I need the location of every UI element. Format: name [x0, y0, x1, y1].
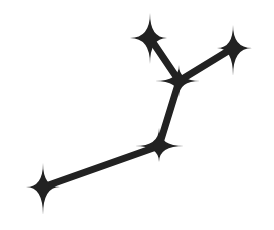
- star-core-bottom-left: [37, 181, 49, 193]
- constellation-edges: [43, 38, 233, 187]
- constellation-diagram: [0, 0, 274, 230]
- edge-top-left-to-hub: [150, 38, 179, 81]
- edge-hub-to-lower-middle: [159, 81, 179, 146]
- edge-lower-middle-to-bottom-left: [43, 146, 159, 187]
- star-core-top-right: [227, 42, 239, 54]
- star-core-top-left: [144, 32, 156, 44]
- star-core-lower-middle: [153, 140, 165, 152]
- star-core-hub: [173, 75, 185, 87]
- edge-top-right-to-hub: [179, 48, 233, 81]
